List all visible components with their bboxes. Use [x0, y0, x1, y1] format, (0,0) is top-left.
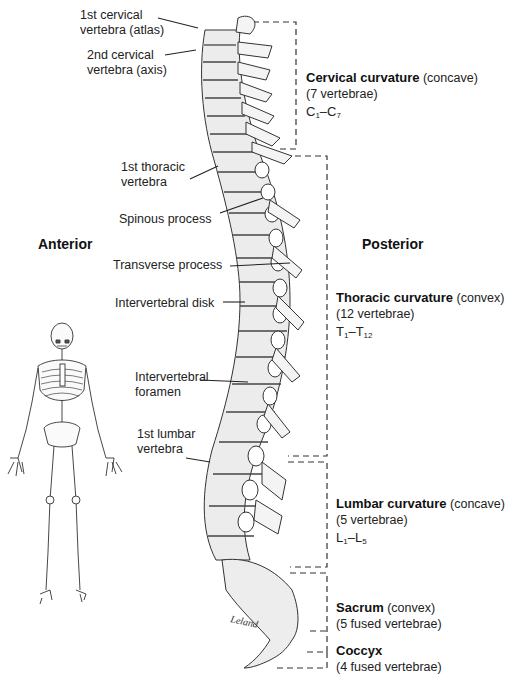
region-lumbar: Lumbar curvature (concave) (5 vertebrae)… [336, 496, 505, 550]
posterior-label: Posterior [362, 236, 423, 252]
vertebra-range: L1–L5 [336, 530, 505, 550]
region-cervical: Cervical curvature (concave) (7 vertebra… [306, 70, 478, 124]
region-name: Coccyx [336, 643, 382, 658]
vertebra-range: C1–C7 [306, 104, 478, 124]
label-spinous-process: Spinous process [119, 212, 211, 227]
region-name: Sacrum [336, 600, 384, 615]
skeleton-figure [8, 323, 122, 604]
label-first-thoracic: 1st thoracic vertebra [121, 160, 185, 190]
label-intervertebral-foramen: Intervertebral foramen [135, 370, 209, 400]
region-sacrum: Sacrum (convex) (5 fused vertebrae) [336, 600, 442, 632]
region-thoracic: Thoracic curvature (convex) (12 vertebra… [336, 290, 504, 344]
label-transverse-process: Transverse process [113, 258, 222, 273]
vertebra-range: T1–T12 [336, 324, 504, 344]
label-axis: 2nd cervical vertebra (axis) [87, 48, 167, 78]
label-first-lumbar: 1st lumbar vertebra [137, 427, 195, 457]
thoracic-bracket [285, 156, 327, 456]
anterior-label: Anterior [38, 236, 92, 252]
region-coccyx: Coccyx (4 fused vertebrae) [336, 643, 442, 675]
region-name: Lumbar curvature [336, 496, 447, 511]
lumbar-bracket [288, 462, 327, 567]
region-name: Cervical curvature [306, 70, 419, 85]
region-name: Thoracic curvature [336, 290, 453, 305]
label-intervertebral-disk: Intervertebral disk [115, 296, 214, 311]
label-atlas: 1st cervical vertebra (atlas) [80, 8, 164, 38]
